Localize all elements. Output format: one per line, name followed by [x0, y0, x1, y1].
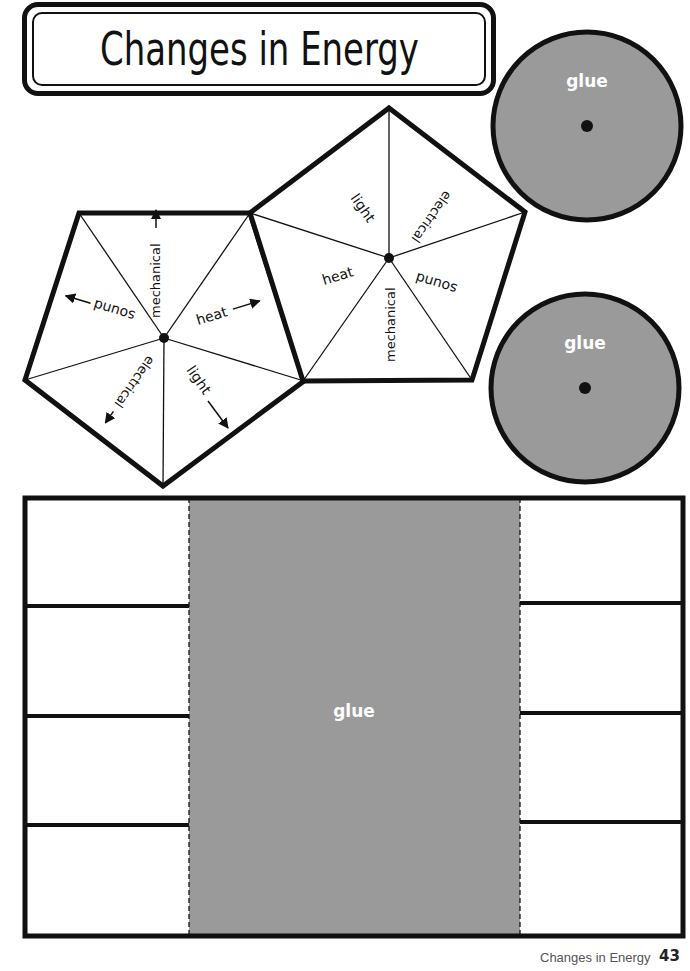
flap-grid: glue	[25, 498, 683, 936]
footer-section-title: Changes in Energy	[540, 950, 651, 965]
right-flap-1[interactable]	[522, 500, 681, 601]
segment-label-mechanical: mechanical	[148, 243, 163, 318]
center-dot-icon	[579, 382, 591, 394]
glue-circle-top[interactable]: glue	[493, 32, 681, 220]
left-flap-1[interactable]	[27, 500, 187, 604]
left-flap-3[interactable]	[27, 718, 187, 823]
left-flap-4[interactable]	[27, 827, 187, 933]
glue-circle-bottom[interactable]: glue	[491, 294, 679, 482]
right-flap-2[interactable]	[522, 605, 681, 711]
right-flap-4[interactable]	[522, 824, 681, 933]
pivot-dot-icon	[159, 333, 169, 343]
right-flap-3[interactable]	[522, 715, 681, 820]
pivot-dot-icon	[384, 253, 394, 263]
left-flap-2[interactable]	[27, 608, 187, 714]
foldable-drawing: glue glue mechanical heat light	[0, 0, 690, 971]
center-dot-icon	[581, 120, 593, 132]
segment-label-mechanical: mechanical	[383, 287, 398, 362]
right-pentagon[interactable]: light electrical sound mechanical heat	[250, 108, 525, 381]
glue-label: glue	[564, 333, 606, 353]
glue-label: glue	[566, 71, 608, 91]
page-number: 43	[659, 947, 680, 965]
glue-label: glue	[333, 701, 375, 721]
